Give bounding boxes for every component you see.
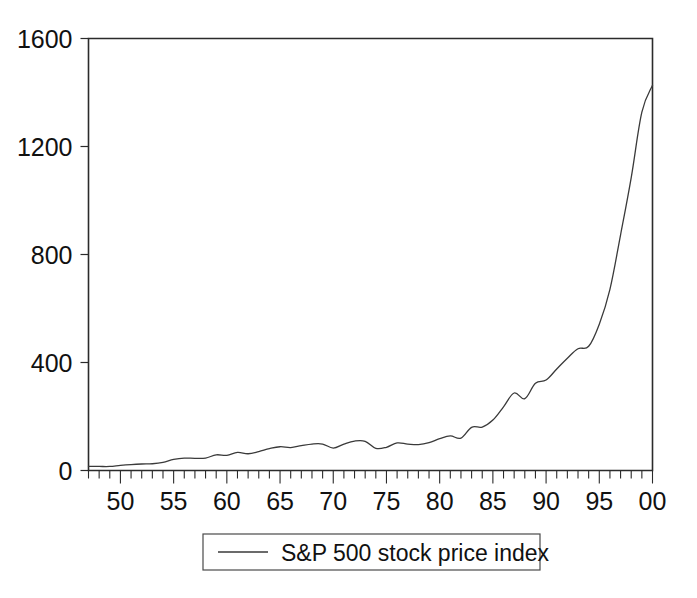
y-tick-label: 1200 [17, 133, 73, 161]
x-tick-label: 50 [107, 487, 135, 515]
x-tick-label: 00 [639, 487, 667, 515]
x-tick-label: 70 [319, 487, 347, 515]
x-tick-label: 65 [266, 487, 294, 515]
x-tick-label: 80 [426, 487, 454, 515]
x-tick-label: 95 [585, 487, 613, 515]
y-tick-label: 400 [31, 349, 73, 377]
x-tick-label: 90 [532, 487, 560, 515]
y-tick-label: 1600 [17, 25, 73, 53]
x-tick-label: 75 [373, 487, 401, 515]
sp500-line-chart: 040080012001600 5055606570758085909500 S… [0, 0, 697, 598]
x-tick-label: 60 [213, 487, 241, 515]
legend-label: S&P 500 stock price index [281, 540, 550, 566]
y-tick-label: 800 [31, 241, 73, 269]
y-tick-label: 0 [59, 457, 73, 485]
x-tick-label: 55 [160, 487, 188, 515]
x-tick-label: 85 [479, 487, 507, 515]
chart-container: 040080012001600 5055606570758085909500 S… [0, 0, 697, 598]
chart-legend: S&P 500 stock price index [203, 534, 550, 570]
